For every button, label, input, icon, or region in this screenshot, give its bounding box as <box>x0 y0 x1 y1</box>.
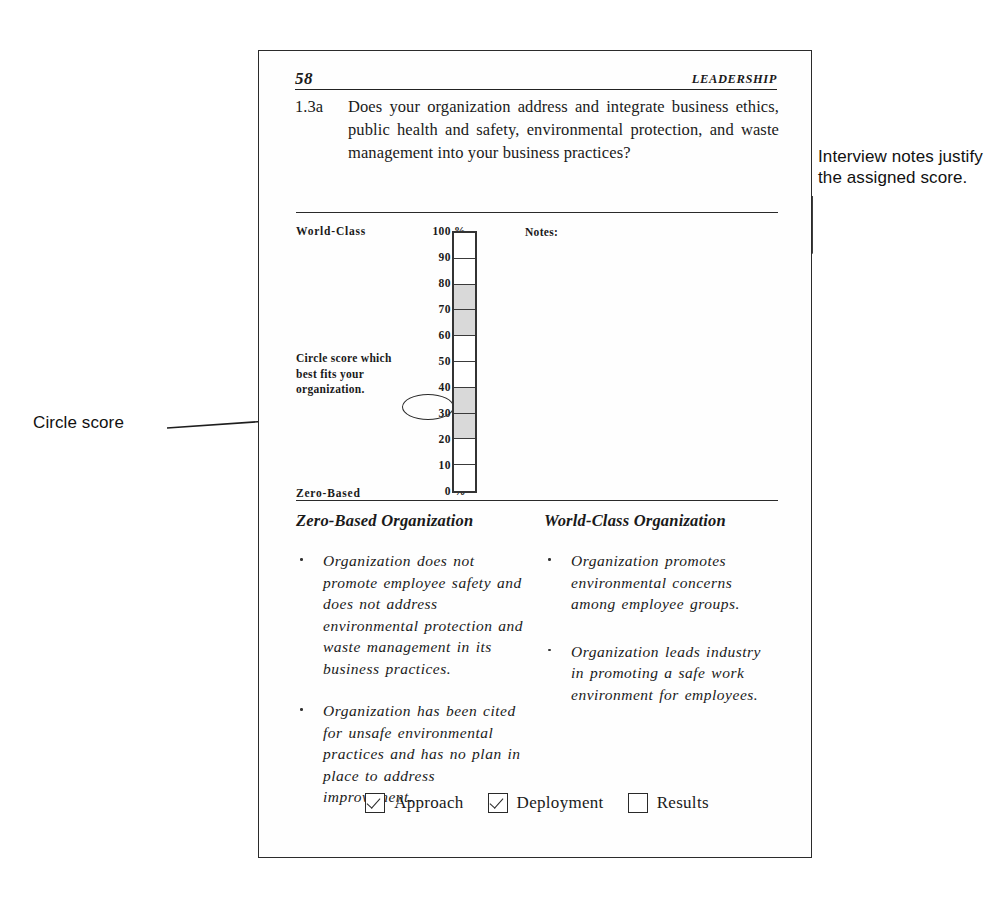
scoring-section-bottom-rule <box>296 500 778 501</box>
bullet-dot-icon <box>300 558 303 561</box>
checkbox-label-approach: Approach <box>394 793 463 813</box>
world-class-heading: World-Class Organization <box>544 511 778 531</box>
scale-bottom-label: Zero-Based <box>296 487 406 499</box>
scale-top-label: World-Class <box>296 225 406 237</box>
zero-based-column: Zero-Based Organization Organization doe… <box>296 511 531 829</box>
running-head: 58 LEADERSHIP <box>295 69 777 91</box>
scale-cell-90-100[interactable] <box>454 233 475 259</box>
circled-score-marker <box>402 394 454 420</box>
list-item: Organization promotes environmental conc… <box>544 550 778 615</box>
question-number: 1.3a <box>295 97 323 117</box>
annotation-interview-notes: Interview notes justify the assigned sco… <box>818 146 993 188</box>
bullet-text: Organization has been cited for unsafe e… <box>323 702 521 805</box>
world-class-column: World-Class Organization Organization pr… <box>544 511 778 726</box>
scale-cell-30-40[interactable] <box>454 388 475 414</box>
checkbox-deployment[interactable] <box>488 793 508 813</box>
zero-based-heading: Zero-Based Organization <box>296 511 531 531</box>
question-block: 1.3a Does your organization address and … <box>295 95 779 164</box>
bullet-dot-icon <box>548 649 551 652</box>
scoring-section-top-rule <box>296 212 778 213</box>
checkbox-approach[interactable] <box>365 793 385 813</box>
scale-cell-70-80[interactable] <box>454 285 475 311</box>
notes-label: Notes: <box>525 226 558 238</box>
checkbox-label-results: Results <box>657 793 709 813</box>
scale-cell-0-10[interactable] <box>454 465 475 491</box>
list-item: Organization has been cited for unsafe e… <box>296 700 531 808</box>
scale-cell-60-70[interactable] <box>454 310 475 336</box>
evaluation-dimensions: Approach Deployment Results <box>296 793 778 813</box>
checkbox-item-results[interactable]: Results <box>628 793 709 813</box>
list-item: Organization leads industry in promoting… <box>544 641 778 706</box>
bullet-text: Organization promotes environmental conc… <box>571 552 740 612</box>
scale-cell-80-90[interactable] <box>454 259 475 285</box>
bullet-dot-icon <box>548 558 551 561</box>
bullet-text: Organization leads industry in promoting… <box>571 643 761 703</box>
list-item: Organization does not promote employee s… <box>296 550 531 679</box>
scale-bar[interactable] <box>452 231 477 493</box>
comparison-columns: Zero-Based Organization Organization doe… <box>296 511 778 791</box>
assessment-page: 58 LEADERSHIP 1.3a Does your organizatio… <box>258 50 812 858</box>
scale-instruction: Circle score which best fits your organi… <box>296 351 411 398</box>
scoring-scale: World-Class Zero-Based Circle score whic… <box>296 221 778 493</box>
checkbox-label-deployment: Deployment <box>517 793 604 813</box>
scale-cell-50-60[interactable] <box>454 336 475 362</box>
checkbox-item-approach[interactable]: Approach <box>365 793 463 813</box>
bullet-dot-icon <box>300 708 303 711</box>
page-number: 58 <box>295 69 313 89</box>
running-head-title: LEADERSHIP <box>692 72 777 87</box>
scale-cell-10-20[interactable] <box>454 439 475 465</box>
checkbox-item-deployment[interactable]: Deployment <box>488 793 604 813</box>
header-rule <box>295 89 777 90</box>
scale-cell-20-30[interactable] <box>454 414 475 440</box>
bullet-text: Organization does not promote employee s… <box>323 552 523 677</box>
scale-cell-40-50[interactable] <box>454 362 475 388</box>
question-text: Does your organization address and integ… <box>348 95 779 164</box>
annotation-circle-score: Circle score <box>33 412 124 433</box>
checkbox-results[interactable] <box>628 793 648 813</box>
